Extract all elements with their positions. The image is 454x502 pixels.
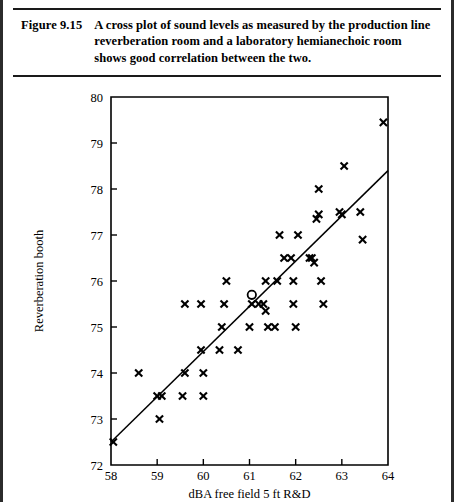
data-point-cross xyxy=(158,392,165,399)
data-point-cross xyxy=(290,300,297,307)
x-tick-label: 61 xyxy=(243,469,256,483)
figure-caption-box: Figure 9.15 A cross plot of sound levels… xyxy=(13,8,441,77)
data-point-cross xyxy=(357,208,364,215)
figure-label: Figure 9.15 xyxy=(21,17,94,33)
data-point-cross xyxy=(197,346,204,353)
x-tick-label: 64 xyxy=(382,469,395,483)
data-point-cross xyxy=(281,254,288,261)
data-point-cross xyxy=(359,236,366,243)
x-tick-label: 62 xyxy=(289,469,302,483)
data-point-cross xyxy=(262,277,269,284)
data-point-cross xyxy=(221,300,228,307)
data-point-cross xyxy=(260,300,267,307)
data-point-cross xyxy=(156,415,163,422)
y-tick-label: 79 xyxy=(91,137,104,151)
data-points-layer xyxy=(110,119,387,446)
data-point-cross xyxy=(271,323,278,330)
y-tick-label: 73 xyxy=(91,413,104,427)
data-point-cross xyxy=(248,300,255,307)
data-point-cross xyxy=(181,300,188,307)
data-point-cross xyxy=(317,277,324,284)
data-point-cross xyxy=(246,323,253,330)
data-point-cross xyxy=(223,277,230,284)
x-tick-label: 58 xyxy=(105,469,118,483)
page: Figure 9.15 A cross plot of sound levels… xyxy=(0,0,454,502)
y-tick-label: 72 xyxy=(91,459,104,473)
data-point-cross xyxy=(200,369,207,376)
data-point-cross xyxy=(276,231,283,238)
data-point-cross xyxy=(292,323,299,330)
data-point-cross xyxy=(287,254,294,261)
scatter-plot: 72737475767778798058596061626364dBA free… xyxy=(3,88,454,502)
data-point-cross xyxy=(341,162,348,169)
figure-caption-text: A cross plot of sound levels as measured… xyxy=(94,17,433,66)
axes-layer xyxy=(111,97,388,465)
data-point-cross xyxy=(135,369,142,376)
data-point-cross xyxy=(290,277,297,284)
data-point-cross xyxy=(216,346,223,353)
y-tick-label: 76 xyxy=(91,275,104,289)
data-point-cross xyxy=(264,323,271,330)
y-tick-label: 77 xyxy=(91,229,104,243)
data-point-cross xyxy=(380,119,387,126)
data-point-cross xyxy=(320,300,327,307)
x-tick-label: 60 xyxy=(197,469,210,483)
plot-frame xyxy=(111,97,388,465)
data-point-cross xyxy=(197,300,204,307)
data-point-cross xyxy=(315,185,322,192)
axis-labels-layer: 72737475767778798058596061626364dBA free… xyxy=(32,91,395,502)
y-tick-label: 74 xyxy=(91,367,104,381)
data-point-cross xyxy=(294,231,301,238)
data-point-cross xyxy=(200,392,207,399)
y-tick-label: 80 xyxy=(91,91,104,105)
y-tick-label: 75 xyxy=(91,321,104,335)
data-point-cross xyxy=(179,392,186,399)
data-point-cross xyxy=(234,346,241,353)
data-point-cross xyxy=(262,307,269,314)
x-axis-title: dBA free field 5 ft R&D xyxy=(189,487,311,501)
x-tick-label: 63 xyxy=(336,469,349,483)
chart-container: 72737475767778798058596061626364dBA free… xyxy=(3,88,454,502)
x-tick-label: 59 xyxy=(151,469,164,483)
data-point-cross xyxy=(218,323,225,330)
y-axis-title: Reverberation booth xyxy=(32,229,46,332)
y-tick-label: 78 xyxy=(91,183,104,197)
data-point-circle xyxy=(248,291,256,299)
